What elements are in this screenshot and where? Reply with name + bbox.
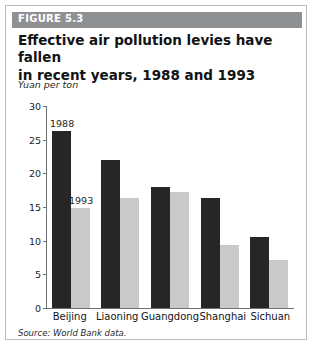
bar-shanghai-1993 xyxy=(220,245,239,308)
x-axis-label-shanghai: Shanghai xyxy=(199,311,246,322)
chart-plot-area: 051015202530 19881993 xyxy=(46,106,294,308)
figure-container: FIGURE 5.3 Effective air pollution levie… xyxy=(5,5,307,340)
y-axis-tick-label: 25 xyxy=(29,134,41,145)
bar-group xyxy=(195,106,245,308)
source-note: Source: World Bank data. xyxy=(18,328,126,338)
y-axis-tick-label: 0 xyxy=(35,303,41,314)
bar-group: 19881993 xyxy=(46,106,96,308)
bar-liaoning-1993 xyxy=(120,198,139,308)
bar-group xyxy=(145,106,195,308)
y-axis-tick-label: 30 xyxy=(29,101,41,112)
bar-liaoning-1988 xyxy=(101,160,120,308)
y-axis-tick-mark xyxy=(43,308,46,309)
figure-title-line-1: Effective air pollution levies have fall… xyxy=(18,32,272,65)
figure-number-label: FIGURE 5.3 xyxy=(18,13,84,24)
y-axis-tick-label: 15 xyxy=(29,202,41,213)
x-axis-category-labels: BeijingLiaoningGuangdongShanghaiSichuan xyxy=(46,311,294,322)
bar-group xyxy=(96,106,146,308)
bar-data-label-1993: 1993 xyxy=(69,195,93,206)
bar-beijing-1988 xyxy=(52,131,71,308)
x-axis-label-beijing: Beijing xyxy=(46,311,93,322)
bar-sichuan-1988 xyxy=(250,237,269,308)
x-axis-label-liaoning: Liaoning xyxy=(93,311,140,322)
x-axis-label-guangdong: Guangdong xyxy=(141,311,199,322)
bar-groups: 19881993 xyxy=(46,106,294,308)
bar-data-label-1988: 1988 xyxy=(50,118,74,129)
bar-sichuan-1993 xyxy=(269,260,288,308)
y-axis-unit-label: Yuan per ton xyxy=(18,79,78,90)
bar-shanghai-1988 xyxy=(201,198,220,308)
x-axis-line xyxy=(46,308,294,309)
y-axis-tick-label: 10 xyxy=(29,235,41,246)
y-axis-tick-label: 20 xyxy=(29,168,41,179)
bar-group xyxy=(244,106,294,308)
y-axis-tick-label: 5 xyxy=(35,269,41,280)
bar-beijing-1993 xyxy=(71,208,90,308)
bar-guangdong-1988 xyxy=(151,187,170,308)
figure-title: Effective air pollution levies have fall… xyxy=(18,32,294,84)
bar-guangdong-1993 xyxy=(170,192,189,308)
x-axis-label-sichuan: Sichuan xyxy=(247,311,294,322)
